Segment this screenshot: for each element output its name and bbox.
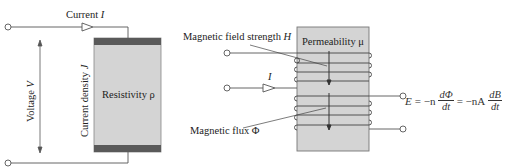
current-arrow-icon (82, 23, 93, 31)
frac1-numerator: dΦ (438, 89, 453, 101)
voltage-label-text: Voltage (25, 87, 36, 122)
voltage-arrow-icon (38, 40, 42, 153)
flux-label: Magnetic flux Φ (190, 126, 260, 137)
current-density-symbol: J (79, 65, 90, 70)
voltage-symbol: V (25, 81, 36, 87)
bottom-electrode (94, 145, 161, 152)
resistivity-label: Resistivity ρ (102, 90, 155, 101)
coil-output-wires (369, 93, 406, 132)
terminal-bottom (5, 160, 11, 166)
field-strength-label-text: Magnetic field strength (183, 31, 284, 42)
frac2-denominator: dt (491, 101, 499, 112)
coil-input-wires (224, 50, 297, 92)
emf-equation: E = −n dΦ dt = −nA dB dt (405, 89, 502, 112)
permeability-label: Permeability μ (302, 37, 364, 48)
voltage-label: Voltage V (26, 81, 37, 122)
frac2-numerator: dB (488, 89, 502, 101)
fraction-dphi-dt: dΦ dt (438, 89, 453, 112)
current-density-label-text: Current density (79, 69, 90, 137)
eq-lhs: E (405, 95, 412, 107)
current-label-text: Current (66, 9, 101, 20)
diagram-canvas (0, 0, 517, 167)
input-current-arrow-icon (263, 84, 275, 92)
eq-part1: = −n (415, 95, 436, 107)
field-strength-label: Magnetic field strength H (183, 32, 291, 43)
eq-part2: = −nA (457, 95, 486, 107)
field-strength-symbol: H (284, 31, 292, 42)
current-density-label: Current density J (80, 65, 91, 137)
current-symbol: I (101, 9, 105, 20)
input-terminal-top (224, 50, 230, 56)
input-terminal-bottom (224, 85, 230, 91)
input-current-label: I (268, 72, 272, 83)
current-label: Current I (66, 10, 104, 21)
fraction-db-dt: dB dt (488, 89, 502, 112)
terminal-top (5, 24, 11, 30)
output-terminal-bottom (400, 126, 406, 132)
top-electrode (94, 38, 161, 45)
frac1-denominator: dt (442, 101, 450, 112)
